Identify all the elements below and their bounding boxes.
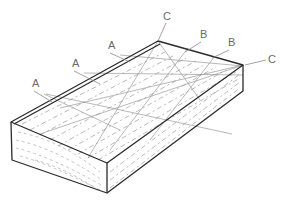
leader-c2 — [245, 60, 266, 65]
label-b1: B — [200, 28, 207, 40]
top-face-outline — [11, 41, 243, 163]
leader-b2 — [212, 50, 229, 58]
board-diagram: A A A C B B C — [0, 0, 282, 206]
labels: A A A C B B C — [32, 10, 276, 89]
side-face-grain — [110, 74, 240, 188]
side-face-outline — [107, 65, 243, 193]
label-a3: A — [108, 39, 116, 51]
label-a1: A — [32, 77, 40, 89]
cut-lines — [40, 41, 243, 158]
leader-c1 — [158, 23, 166, 41]
label-b2: B — [228, 36, 235, 48]
label-c2: C — [268, 53, 276, 65]
end-grain — [16, 132, 103, 190]
label-a2: A — [72, 57, 80, 69]
label-c1: C — [163, 10, 171, 22]
